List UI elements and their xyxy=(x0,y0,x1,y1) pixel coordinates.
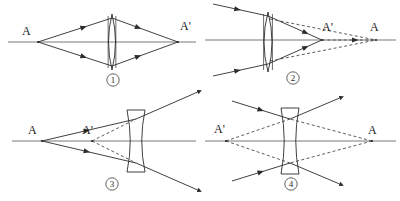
panel-1-image-label: A' xyxy=(180,19,191,33)
panel-4-object-point xyxy=(371,140,373,142)
panel-3-number-text: 3 xyxy=(110,179,115,189)
panel-2 xyxy=(205,4,396,76)
arrow-incident-upper xyxy=(257,107,265,114)
panel-3 xyxy=(12,91,200,191)
panel-1-number-text: 1 xyxy=(111,75,116,85)
arrow-incident-lower xyxy=(83,148,90,155)
arrow-incident-upper xyxy=(234,6,241,12)
panels-layer xyxy=(8,4,396,191)
arrow-incident-lower xyxy=(234,67,241,73)
panel-4 xyxy=(205,97,396,185)
arrow-refracted-lower xyxy=(302,44,310,51)
panel-1-object-point xyxy=(37,41,39,43)
virtual-ray-lower xyxy=(270,40,376,61)
panel-2-image-label: A' xyxy=(322,20,333,34)
panel-3-object-point xyxy=(41,140,43,142)
arrow-incident-lower xyxy=(80,53,88,60)
virtual-ray-right-lower xyxy=(290,141,372,163)
figure-canvas: AA'1AA'2AA'3AA'4 xyxy=(0,0,400,201)
refracted-ray-lower xyxy=(112,42,178,66)
virtual-ray-left-lower xyxy=(226,141,290,163)
incident-ray-upper xyxy=(38,18,112,42)
refracted-ray-upper xyxy=(136,91,200,119)
arrow-axis-construction xyxy=(352,37,358,42)
panel-1 xyxy=(8,14,196,70)
panel-2-object-label: A xyxy=(370,20,379,34)
ray-diagram-svg: AA'1AA'2AA'3AA'4 xyxy=(0,0,400,201)
panel-4-image-label: A' xyxy=(214,122,225,136)
arrow-incident-upper xyxy=(80,24,88,31)
arrow-refracted-upper xyxy=(134,24,142,31)
panel-3-image-point xyxy=(91,140,93,142)
refracted-ray-upper xyxy=(112,18,178,42)
panel-2-object-point xyxy=(375,39,377,41)
panel-3-image-label: A' xyxy=(82,123,93,137)
panel-4-image-point xyxy=(225,140,227,142)
virtual-ray-right-upper xyxy=(290,119,372,141)
incident-ray-lower xyxy=(38,42,112,66)
panel-2-number-text: 2 xyxy=(291,73,296,83)
panel-2-image-point xyxy=(321,39,323,41)
panel-1-image-point xyxy=(177,41,179,43)
arrow-refracted-upper xyxy=(302,29,310,36)
arrow-incident-lower xyxy=(257,169,265,176)
panel-1-object-label: A xyxy=(22,24,31,38)
panel-4-object-label: A xyxy=(368,123,377,137)
arrow-refracted-lower xyxy=(134,53,142,60)
virtual-ray-left-upper xyxy=(226,119,290,141)
panel-3-object-label: A xyxy=(28,123,37,137)
refracted-ray-lower xyxy=(136,163,200,191)
panel-4-number-text: 4 xyxy=(289,179,294,189)
labels-layer: AA'1AA'2AA'3AA'4 xyxy=(22,19,379,190)
